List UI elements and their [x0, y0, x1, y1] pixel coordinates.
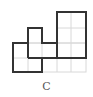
- figure-caption: C: [0, 80, 93, 93]
- bold-outline: [13, 12, 86, 72]
